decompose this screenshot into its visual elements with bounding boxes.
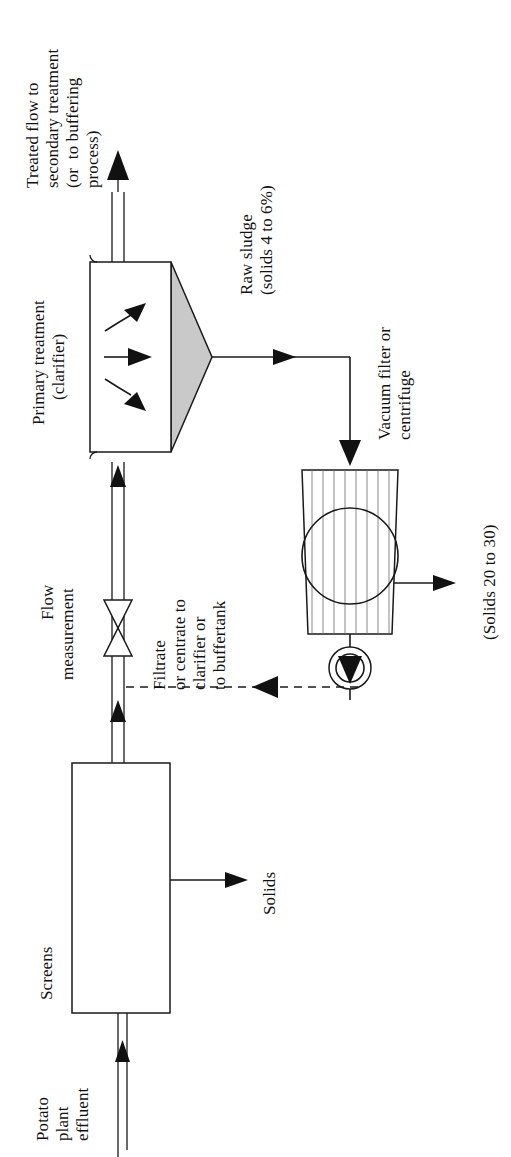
svg-text:to buffertank: to buffertank — [210, 600, 229, 690]
svg-text:Treated flow to: Treated flow to — [23, 82, 42, 188]
node-clarifier — [90, 255, 212, 459]
svg-text:(or to buffering: (or to buffering — [63, 77, 82, 188]
process-flow-diagram: Potato plant effluent Screens Solids — [0, 0, 511, 1157]
svg-text:measurement: measurement — [58, 588, 77, 680]
svg-text:(Solids 20 to 30): (Solids 20 to 30) — [480, 524, 499, 640]
svg-text:centrifuge: centrifuge — [395, 370, 414, 440]
label-flow-measurement: Flow measurement — [38, 584, 77, 680]
label-screens: Screens — [37, 946, 56, 1000]
svg-text:Filtrate: Filtrate — [150, 640, 169, 690]
svg-text:clarifier or: clarifier or — [190, 616, 209, 690]
label-potato-plant-effluent: Potato plant effluent — [33, 1087, 92, 1141]
label-raw-sludge: Raw sludge (solids 4 to 6%) — [237, 185, 276, 295]
node-flow-meter — [104, 600, 132, 656]
svg-text:(clarifier): (clarifier) — [49, 334, 68, 400]
stream-influent — [115, 1013, 130, 1157]
svg-text:or centrate to: or centrate to — [170, 599, 189, 690]
label-treated-flow: Treated flow to secondary treatment (or … — [23, 49, 102, 188]
svg-text:secondary treatment: secondary treatment — [43, 49, 62, 188]
svg-text:effluent: effluent — [73, 1087, 92, 1141]
svg-text:Potato: Potato — [33, 1097, 52, 1141]
svg-text:Vacuum filter or: Vacuum filter or — [375, 327, 394, 440]
stream-filter-cake — [394, 575, 456, 591]
node-screens — [72, 763, 170, 1013]
svg-text:Solids: Solids — [260, 872, 279, 915]
flow-diagram-canvas: Potato plant effluent Screens Solids — [0, 0, 511, 1157]
label-primary-treatment: Primary treatment (clarifier) — [29, 300, 68, 425]
svg-text:Primary treatment: Primary treatment — [29, 300, 48, 425]
stream-treated-flow — [107, 150, 129, 262]
svg-text:Flow: Flow — [38, 584, 57, 620]
node-pump — [329, 634, 371, 700]
svg-text:plant: plant — [53, 1106, 72, 1141]
stream-raw-sludge — [212, 349, 361, 466]
label-vacuum-filter: Vacuum filter or centrifuge — [375, 327, 414, 440]
svg-text:(solids 4 to 6%): (solids 4 to 6%) — [257, 185, 276, 295]
stream-screen-solids — [170, 872, 248, 888]
label-solids: Solids — [260, 872, 279, 915]
label-solids-20-to-30: (Solids 20 to 30) — [480, 524, 499, 640]
svg-text:process): process) — [83, 131, 102, 188]
svg-text:Screens: Screens — [37, 946, 56, 1000]
label-filtrate: Filtrate or centrate to clarifier or to … — [150, 599, 229, 690]
node-vacuum-filter — [302, 468, 398, 638]
svg-text:Raw sludge: Raw sludge — [237, 214, 256, 295]
